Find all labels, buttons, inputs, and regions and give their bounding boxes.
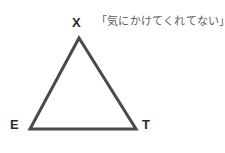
vertex-label-t: T	[142, 118, 150, 131]
triangle-outline	[30, 38, 136, 129]
diagram-canvas: X E T 「気にかけてくれてない」	[0, 0, 225, 153]
quote-annotation: 「気にかけてくれてない」	[96, 16, 225, 28]
vertex-label-x: X	[72, 16, 81, 29]
vertex-label-e: E	[10, 118, 19, 131]
